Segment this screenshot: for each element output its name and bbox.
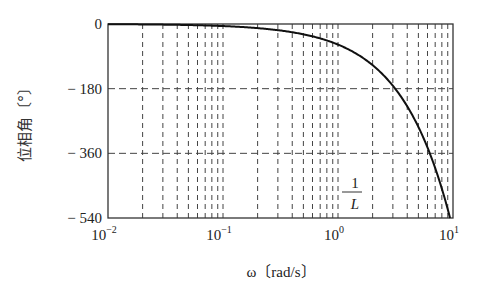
x-tick-label: 10−2 bbox=[91, 224, 117, 243]
annotation-1-over-L: 1 L bbox=[342, 175, 362, 212]
x-tick-label: 100 bbox=[324, 224, 344, 243]
y-tick-label: − 360 bbox=[67, 145, 102, 161]
x-tick-label: 10−1 bbox=[206, 224, 232, 243]
phase-curve bbox=[108, 24, 450, 218]
y-tick-labels: 0− 180− 360− 540 bbox=[67, 16, 102, 226]
x-axis-label: ω〔rad/s〕 bbox=[246, 264, 315, 280]
plot-frame bbox=[108, 24, 453, 218]
phase-plot: 0− 180− 360− 540 10−210−1100101 位相角〔°〕 ω… bbox=[0, 0, 496, 297]
annotation-denominator: L bbox=[350, 196, 359, 212]
annotation-numerator: 1 bbox=[351, 175, 359, 191]
x-tick-labels: 10−210−1100101 bbox=[91, 224, 459, 243]
y-tick-label: 0 bbox=[95, 16, 103, 32]
x-tick-label: 101 bbox=[439, 224, 459, 243]
y-tick-label: − 180 bbox=[67, 81, 102, 97]
grid-lines bbox=[108, 24, 453, 218]
y-axis-label: 位相角〔°〕 bbox=[16, 80, 34, 163]
y-tick-label: − 540 bbox=[67, 210, 102, 226]
